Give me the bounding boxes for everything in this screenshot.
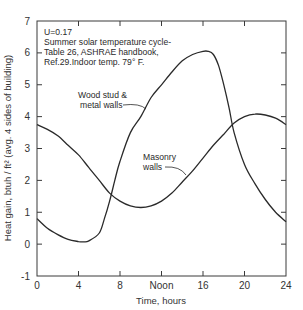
masonry-label-leader — [165, 167, 186, 175]
annotation-line: U=0.17 — [44, 27, 72, 37]
wood-stud-metal-walls-line — [37, 51, 286, 242]
x-axis-title: Time, hours — [136, 295, 186, 306]
annotation-line: Summer solar temperature cycle- — [44, 37, 171, 47]
y-tick-label: -1 — [21, 271, 30, 282]
masonry-series-label-line1: Masonry — [143, 152, 177, 162]
wood-series-label-line1: Wood stud & — [78, 90, 127, 100]
x-tick-label: 16 — [197, 280, 209, 291]
x-tick-label: Noon — [150, 280, 174, 291]
y-tick-label: 5 — [24, 79, 30, 90]
y-tick-label: 0 — [24, 239, 30, 250]
y-tick-label: 6 — [24, 47, 30, 58]
y-tick-label: 1 — [24, 207, 30, 218]
annotations: U=0.17Summer solar temperature cycle-Tab… — [44, 27, 171, 67]
wood-label-leader — [123, 105, 146, 110]
y-axis-title: Heat gain, btuh / ft² (avg. 4 sides of b… — [2, 55, 13, 241]
series — [37, 51, 286, 242]
wood-series-label-line2: metal walls — [80, 100, 123, 110]
heat-gain-chart: 048Noon162024-101234567 U=0.17Summer sol… — [0, 0, 303, 310]
x-tick-label: 24 — [280, 280, 292, 291]
y-tick-label: 3 — [24, 143, 30, 154]
annotation-line: Table 26, ASHRAE handbook, — [44, 47, 159, 57]
x-tick-label: 4 — [76, 280, 82, 291]
y-tick-label: 2 — [24, 175, 30, 186]
y-tick-label: 7 — [24, 16, 30, 27]
x-tick-label: 0 — [34, 280, 40, 291]
y-tick-label: 4 — [24, 111, 30, 122]
x-tick-label: 20 — [239, 280, 251, 291]
annotation-line: Ref.29.Indoor temp. 79° F. — [44, 57, 144, 67]
x-tick-label: 8 — [117, 280, 123, 291]
masonry-series-label-line2: walls — [142, 162, 162, 172]
